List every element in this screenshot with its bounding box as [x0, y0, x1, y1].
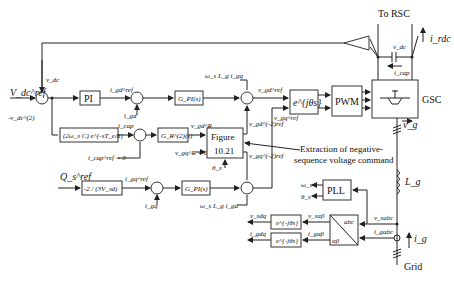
vsabc-label: v_sabc — [374, 214, 394, 222]
vdc-label: v_dc — [46, 76, 60, 84]
vgd-ref-label: v_gd^ref — [258, 86, 283, 94]
vsdq-label: v_sdq — [250, 212, 267, 220]
control-diagram: To RSC i_rdc v_dc i_cap GSC V_dc^ref v_d… — [0, 0, 454, 283]
vdc2-label: -v_dc^(2) — [8, 114, 35, 122]
cap-icap-label: i_cap — [394, 69, 410, 77]
ff-q-label: ω_s L_g i_gd — [200, 202, 239, 210]
lg-label: L_g — [404, 176, 421, 187]
cap-ff-label: (2ω_s C) e^{-sT_e/8} — [63, 132, 123, 140]
annotation-line2: sequence voltage command — [294, 155, 394, 165]
pwm-label: PWM — [335, 96, 359, 107]
sensor-buffer-icon — [344, 36, 369, 50]
dc-capacitor: v_dc i_cap — [377, 43, 414, 77]
theta-s-label: θ_s — [212, 164, 222, 172]
igq-ref-label: i_gq^ref — [125, 175, 149, 183]
vdc-feedback-path — [42, 36, 369, 95]
igd-label: i_gd — [124, 112, 137, 120]
sum-junction-vgq — [241, 182, 253, 194]
igdq-label: i_gdq — [250, 230, 266, 238]
gpi-d-label: G_PI(s) — [178, 95, 201, 103]
irdc-label: i_rdc — [430, 33, 451, 44]
q-gain-label: -2 / (3V_sd) — [84, 185, 118, 193]
pll-label: PLL — [327, 185, 345, 196]
icap-ref-label: i_cap^ref = 0 — [88, 154, 126, 162]
theta-s-pll-label: θ_s — [301, 193, 311, 201]
icap-label: i_cap — [118, 122, 134, 130]
qs-ref-label: Q_s^ref — [60, 171, 92, 182]
gsc-converter: GSC — [372, 80, 442, 118]
annotation-line1: Extraction of negative- — [300, 144, 383, 154]
three-phase-mark-grid-icon — [393, 249, 401, 258]
omega-s-label: ω_s — [301, 181, 312, 189]
figure-label-1: Figure — [211, 132, 235, 142]
ab-label: αβ — [332, 237, 340, 245]
three-phase-mark-icon — [393, 125, 401, 134]
igab-label: i_gαβ — [308, 230, 325, 238]
rotate-inv-v-label: e^{-jθs} — [276, 219, 298, 227]
gpi-q-label: G_PI(s) — [185, 185, 208, 193]
ff-d-label: ω_s L_g i_gq — [205, 72, 244, 80]
sum-junction-icap — [134, 129, 146, 141]
ig-label: i_g — [414, 233, 427, 244]
vgq-neg-label: v_gq^(-2)ref — [249, 152, 285, 160]
pi-label: PI — [84, 93, 93, 104]
to-rsc-label: To RSC — [378, 8, 410, 19]
sum-junction-igd — [131, 92, 143, 104]
gr2-label: G_R^(2)(s) — [161, 132, 193, 140]
igd-ref-label: i_gd^ref — [110, 86, 134, 94]
igabc-label: i_gabc — [374, 228, 394, 236]
vdc-ref-label: V_dc^ref — [10, 87, 47, 98]
sum-junction-vgd — [241, 92, 253, 104]
cap-vdc-label: v_dc — [393, 43, 407, 51]
vgq-ref-label: v_gq^ref — [274, 114, 299, 122]
rotate-inv-i-label: e^{-jθs} — [276, 237, 298, 245]
vsab-label: v_sαβ — [308, 212, 325, 220]
sum-junction-igq — [151, 182, 163, 194]
rotate-fwd-label: e^{jθs} — [293, 97, 321, 108]
igq-label: i_gq — [145, 202, 158, 210]
gsc-label: GSC — [422, 94, 442, 105]
figure-label-2: 10.21 — [214, 146, 234, 156]
vgq-r-label: v_gq^R = 0 — [175, 149, 208, 157]
grid-label: Grid — [404, 261, 422, 272]
abc-label: abc — [344, 218, 355, 226]
